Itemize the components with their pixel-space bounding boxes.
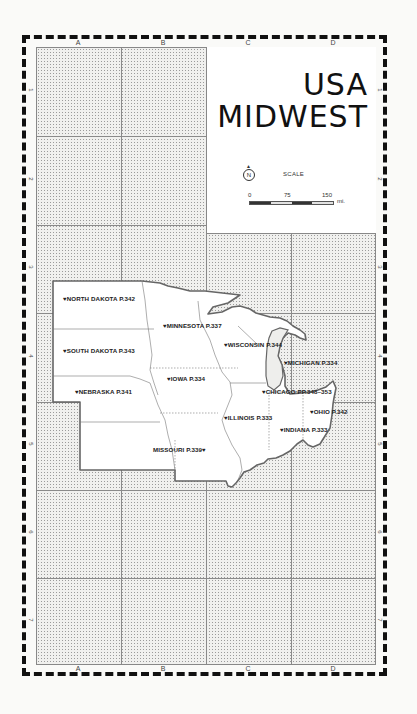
midwest-outline [53, 281, 336, 487]
state-label-link[interactable]: ♥CHICAGO PP.348–353 [262, 388, 332, 395]
state-label-link[interactable]: ♥MICHIGAN P.334 [284, 359, 337, 366]
title-line-1: USA [217, 69, 368, 101]
state-label-link[interactable]: ♥ILLINOIS P.333 [224, 414, 272, 421]
state-label-link[interactable]: ♥INDIANA P.333 [280, 426, 328, 433]
state-label-text: OHIO P.342 [314, 408, 348, 415]
state-label-text: IOWA P.334 [171, 375, 205, 382]
state-label-text: NORTH DAKOTA P.342 [67, 295, 135, 302]
state-label-link[interactable]: ♥WISCONSIN P.344 [224, 341, 282, 348]
state-label-text: NEBRASKA P.341 [79, 388, 132, 395]
state-label-text: MISSOURI P.339 [153, 446, 202, 453]
state-label-link[interactable]: ♥NEBRASKA P.341 [75, 388, 132, 395]
map-title: USA MIDWEST [217, 69, 368, 133]
state-label-text: WISCONSIN P.344 [228, 341, 282, 348]
state-label-link[interactable]: ♥OHIO P.342 [310, 408, 348, 415]
state-label-link[interactable]: ♥NORTH DAKOTA P.342 [63, 295, 135, 302]
scale-tick-150: 150 [322, 192, 332, 198]
state-label-text: SOUTH DAKOTA P.343 [67, 347, 135, 354]
state-label-text: CHICAGO PP.348–353 [266, 388, 332, 395]
scale-unit: mi. [337, 198, 345, 204]
state-label-link[interactable]: ♥MINNESOTA P.337 [163, 322, 222, 329]
map-pin-icon: ♥ [202, 447, 206, 453]
scale-tick-0: 0 [248, 192, 251, 198]
state-label-text: MICHIGAN P.334 [288, 359, 338, 366]
state-label-text: INDIANA P.333 [284, 426, 328, 433]
compass-icon: N [243, 169, 255, 181]
state-label-text: MINNESOTA P.337 [167, 322, 222, 329]
state-label-link[interactable]: MISSOURI P.339♥ [153, 446, 206, 453]
state-label-link[interactable]: ♥SOUTH DAKOTA P.343 [63, 347, 135, 354]
title-line-2: MIDWEST [217, 101, 368, 133]
state-label-link[interactable]: ♥IOWA P.334 [167, 375, 205, 382]
state-label-text: ILLINOIS P.333 [228, 414, 273, 421]
scale-label: SCALE [283, 171, 304, 177]
scale-tick-75: 75 [284, 192, 291, 198]
title-panel: USA MIDWEST ▲ N SCALE 0 75 150 mi. [206, 47, 376, 234]
scale-bar [249, 201, 334, 205]
